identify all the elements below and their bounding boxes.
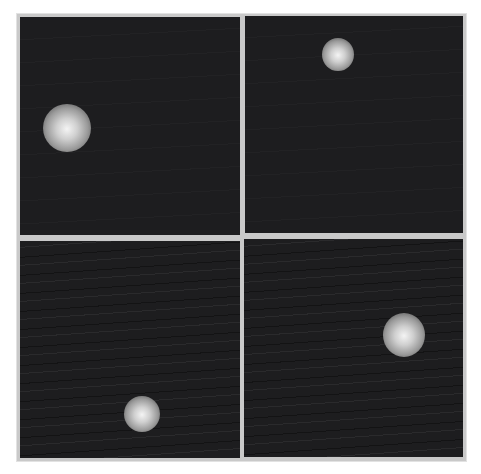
- bright-spot-top-right: [322, 38, 354, 71]
- bright-spot-bottom-left: [124, 396, 160, 432]
- panel-bottom-right: [244, 239, 463, 457]
- panel-top-right: [245, 16, 463, 233]
- bright-spot-top-left: [43, 104, 91, 152]
- bright-spot-bottom-right: [383, 313, 425, 357]
